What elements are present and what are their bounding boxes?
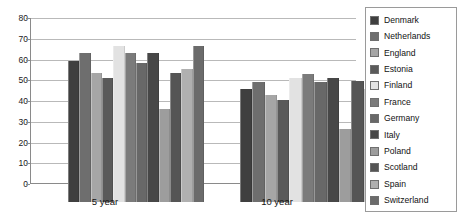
bar [91,73,102,202]
bar [68,61,79,202]
bar [339,129,351,202]
y-tick-label: 0 [2,180,28,189]
legend-item-label: Germany [384,114,419,123]
legend-item-label: Switzerland [384,196,428,205]
legend-swatch-icon [370,130,379,139]
bar-chart: 01020304050607080 5 year10 year DenmarkN… [0,0,463,224]
bar [113,46,124,202]
legend-item-label: Finland [384,81,412,90]
legend-swatch-icon [370,16,379,25]
legend-item-netherlands[interactable]: Netherlands [370,28,453,44]
legend-item-label: Scotland [384,163,417,172]
legend-item-england[interactable]: England [370,45,453,61]
bar [327,78,339,203]
y-tick-label: 40 [2,97,28,106]
bar [159,109,170,202]
plot-region: 01020304050607080 5 year10 year [0,0,358,224]
legend-swatch-icon [370,65,379,74]
bars-layer [62,36,386,202]
bar [136,63,147,202]
legend-item-label: Estonia [384,65,413,74]
bar [181,69,192,202]
legend-item-estonia[interactable]: Estonia [370,61,453,77]
legend-item-denmark[interactable]: Denmark [370,12,453,28]
bar [147,53,158,202]
legend-item-italy[interactable]: Italy [370,127,453,143]
x-group-label: 10 year [209,197,345,207]
legend-swatch-icon [370,180,379,189]
legend-item-scotland[interactable]: Scotland [370,160,453,176]
legend-swatch-icon [370,32,379,41]
y-tick-label: 10 [2,159,28,168]
legend-item-poland[interactable]: Poland [370,143,453,159]
legend-item-label: Poland [384,147,411,156]
gridline [31,18,356,19]
y-tick-label: 20 [2,138,28,147]
y-tick-mark [26,184,30,185]
x-group-label: 5 year [37,197,173,207]
bar [302,74,314,202]
legend-swatch-icon [370,196,379,205]
legend-item-label: Spain [384,180,406,189]
bar [314,82,326,202]
legend-item-label: France [384,98,411,107]
legend-item-finland[interactable]: Finland [370,78,453,94]
y-tick-label: 60 [2,55,28,64]
legend-swatch-icon [370,98,379,107]
legend-item-france[interactable]: France [370,94,453,110]
bar [240,89,252,202]
legend: DenmarkNetherlandsEnglandEstoniaFinlandF… [365,7,457,212]
bar [277,100,289,202]
bar [125,53,136,202]
bar [265,95,277,202]
legend-swatch-icon [370,163,379,172]
y-tick-label: 70 [2,35,28,44]
bar [252,82,264,202]
y-tick-label: 80 [2,14,28,23]
bar [170,73,181,202]
y-axis: 01020304050607080 [0,18,28,184]
bar [193,46,204,202]
legend-item-label: Denmark [384,16,419,25]
bar [289,78,301,203]
bar [351,81,363,202]
y-tick-label: 50 [2,76,28,85]
legend-swatch-icon [370,114,379,123]
legend-item-spain[interactable]: Spain [370,176,453,192]
plot-area [30,18,355,184]
legend-item-germany[interactable]: Germany [370,110,453,126]
legend-swatch-icon [370,147,379,156]
legend-swatch-icon [370,48,379,57]
legend-item-switzerland[interactable]: Switzerland [370,192,453,208]
bar [79,53,90,202]
legend-item-label: England [384,49,416,58]
legend-item-label: Netherlands [384,32,430,41]
y-tick-label: 30 [2,118,28,127]
legend-item-label: Italy [384,131,400,140]
legend-swatch-icon [370,81,379,90]
bar [102,78,113,203]
